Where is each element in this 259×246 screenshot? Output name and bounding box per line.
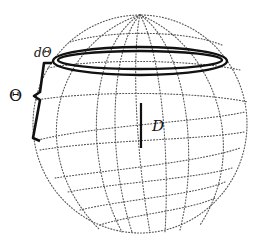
theta-brace [33, 63, 52, 141]
polar-angle-label: Θ [9, 88, 22, 104]
ring-inner [58, 51, 222, 69]
parallel [68, 168, 232, 192]
parallel [80, 182, 225, 210]
sphere-wireframe [0, 0, 259, 246]
sphere-diagram: dΘ Θ D [0, 0, 259, 246]
ring-width-label: dΘ [34, 47, 52, 59]
parallel [55, 148, 240, 178]
diameter-label: D [152, 119, 164, 134]
parallel [100, 198, 215, 225]
